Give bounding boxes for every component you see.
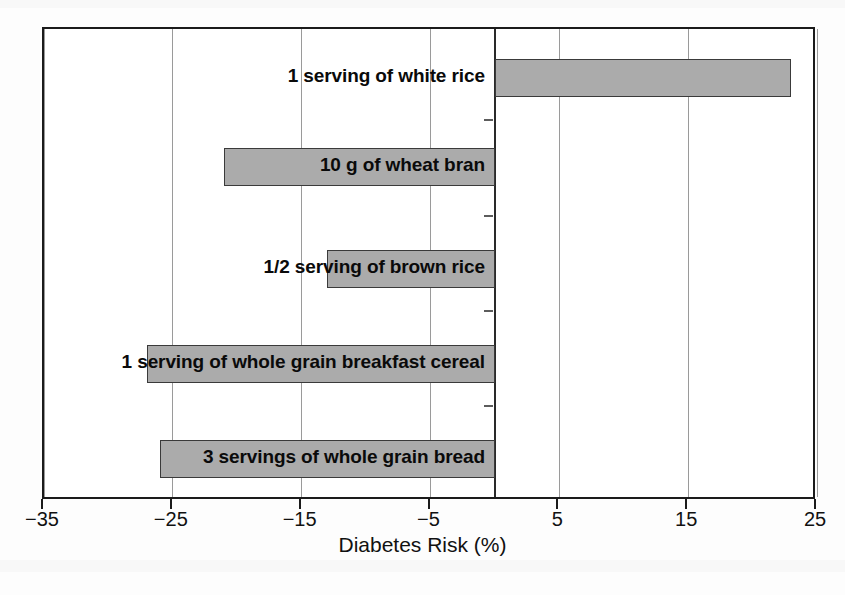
axis-inner-tick	[484, 119, 493, 121]
x-tick-label: 15	[646, 508, 726, 531]
x-tick-label: −15	[260, 508, 340, 531]
bar-label: 1 serving of whole grain breakfast cerea…	[0, 343, 485, 381]
scan-artifact	[0, 560, 845, 572]
bar-label: 1 serving of white rice	[0, 57, 485, 95]
x-tick-label: 5	[517, 508, 597, 531]
x-tick-label: −5	[389, 508, 469, 531]
bar-label: 10 g of wheat bran	[0, 146, 485, 184]
gridline-25	[817, 29, 818, 497]
scan-artifact	[0, 0, 845, 8]
bar-label: 3 servings of whole grain bread	[0, 438, 485, 476]
x-tick-label: −25	[131, 508, 211, 531]
gridline-5	[559, 29, 560, 497]
bar	[495, 59, 791, 97]
axis-inner-tick	[484, 405, 493, 407]
x-tick-label: −35	[2, 508, 82, 531]
x-axis-title: Diabetes Risk (%)	[0, 533, 845, 557]
axis-inner-tick	[484, 310, 493, 312]
axis-inner-tick	[484, 215, 493, 217]
gridline-15	[688, 29, 689, 497]
bar-label: 1/2 serving of brown rice	[0, 248, 485, 286]
chart-figure: 1 serving of white rice10 g of wheat bra…	[0, 0, 845, 595]
x-tick-label: 25	[775, 508, 845, 531]
